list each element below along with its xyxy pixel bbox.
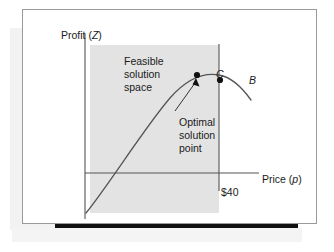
figure-shadow-bottom (55, 224, 298, 228)
feasible-solution-space-label: Feasible solution space (124, 55, 164, 93)
point-c-marker (194, 72, 200, 78)
y-axis-label: Profit (Z) (61, 29, 102, 42)
price-tick-label: $40 (221, 186, 239, 199)
y-axis-label-prefix: Profit ( (61, 29, 92, 41)
figure-panel: Profit (Z) Price (p) Feasible solution s… (22, 9, 317, 224)
x-axis-label-suffix: ) (298, 173, 302, 185)
point-c-label: C (216, 68, 224, 81)
figure-container: Profit (Z) Price (p) Feasible solution s… (0, 0, 334, 252)
x-axis-label: Price (p) (262, 173, 302, 186)
point-b-label: B (249, 74, 256, 87)
y-axis-label-suffix: ) (98, 29, 102, 41)
optimal-solution-point-label: Optimal solution point (179, 116, 215, 154)
figure-shadow-wash-bottom (12, 228, 302, 242)
profit-curve-plot (23, 10, 316, 223)
x-axis-label-prefix: Price ( (262, 173, 292, 185)
